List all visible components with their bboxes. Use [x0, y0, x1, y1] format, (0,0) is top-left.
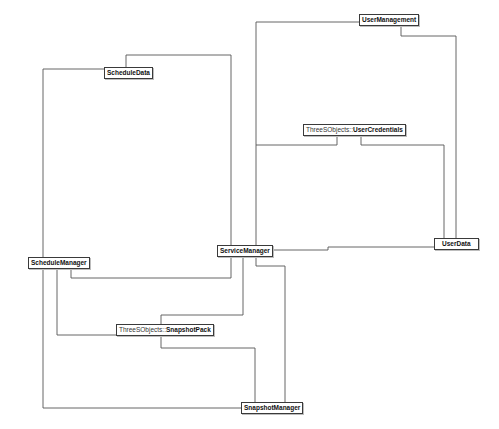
node-label: ServiceManager [220, 247, 270, 254]
node-scheduledata[interactable]: ScheduleData [104, 67, 153, 79]
edge-usercredentials-userdata [361, 135, 444, 238]
diagram-canvas: UserManagement ScheduleData ThreeSObject… [0, 0, 499, 429]
node-namespace: ThreeSObjects:: [119, 326, 166, 333]
node-label: ScheduleData [107, 69, 150, 76]
node-snapshotpack[interactable]: ThreeSObjects::SnapshotPack [116, 324, 214, 336]
edge-snapshotpack-snapshotmanager [161, 336, 255, 402]
node-namespace: ThreeSObjects:: [306, 126, 353, 133]
edge-layer [0, 0, 499, 429]
node-label: ScheduleManager [31, 259, 87, 266]
edge-usercredentials-servicemanager [256, 135, 337, 145]
edge-scheduledata-schedulemanager [43, 69, 104, 257]
node-usermanagement[interactable]: UserManagement [359, 14, 419, 26]
node-label: UserManagement [362, 16, 416, 23]
edge-schedulemanager-servicemanager [71, 256, 231, 278]
edge-servicemanager-userdata [268, 247, 434, 250]
node-userdata[interactable]: UserData [434, 238, 479, 250]
edge-schedulemanager-snapshotpack [57, 269, 116, 335]
edge-scheduledata-servicemanager [126, 55, 231, 245]
node-label: UserCredentials [353, 126, 403, 133]
node-servicemanager[interactable]: ServiceManager [217, 245, 273, 257]
node-snapshotmanager[interactable]: SnapshotManager [241, 402, 303, 414]
edge-servicemanager-snapshotmanager [256, 256, 285, 402]
edge-schedulemanager-snapshotmanager [43, 269, 241, 408]
node-schedulemanager[interactable]: ScheduleManager [28, 257, 90, 269]
node-label: SnapshotPack [166, 326, 211, 333]
edge-usermanagement-userdata [401, 26, 456, 238]
node-usercredentials[interactable]: ThreeSObjects::UserCredentials [303, 124, 406, 136]
node-label: UserData [442, 240, 471, 247]
node-label: SnapshotManager [244, 404, 300, 411]
